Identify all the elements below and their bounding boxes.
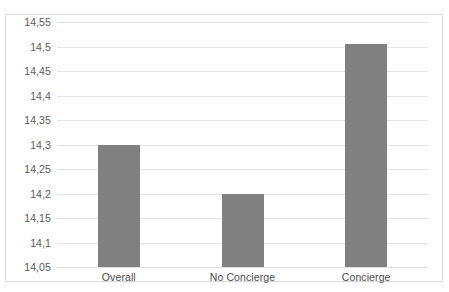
gridline bbox=[57, 267, 428, 268]
bar-series bbox=[57, 22, 428, 267]
y-axis-tick-label: 14,5 bbox=[30, 41, 51, 53]
y-axis-tick-label: 14,25 bbox=[24, 163, 51, 175]
y-axis-tick-label: 14,2 bbox=[30, 188, 51, 200]
y-axis-tick-label: 14,05 bbox=[24, 261, 51, 273]
bar bbox=[222, 194, 264, 268]
y-axis-tick-labels: 14,5514,514,4514,414,3514,314,2514,214,1… bbox=[0, 22, 51, 267]
y-axis-tick-label: 14,15 bbox=[24, 212, 51, 224]
bar bbox=[98, 145, 140, 268]
bar bbox=[345, 44, 387, 267]
x-axis-category-label: Concierge bbox=[342, 271, 391, 283]
y-axis-tick-label: 14,4 bbox=[30, 90, 51, 102]
bar-chart: 14,5514,514,4514,414,3514,314,2514,214,1… bbox=[0, 0, 449, 292]
y-axis-tick-label: 14,55 bbox=[24, 16, 51, 28]
y-axis-tick-label: 14,45 bbox=[24, 65, 51, 77]
x-axis-category-label: No Concierge bbox=[210, 271, 275, 283]
y-axis-tick-label: 14,1 bbox=[30, 237, 51, 249]
x-axis-category-labels: OverallNo ConciergeConcierge bbox=[57, 269, 428, 289]
plot-area bbox=[57, 22, 428, 267]
y-axis-tick-label: 14,35 bbox=[24, 114, 51, 126]
y-axis-tick-label: 14,3 bbox=[30, 139, 51, 151]
x-axis-category-label: Overall bbox=[102, 271, 136, 283]
